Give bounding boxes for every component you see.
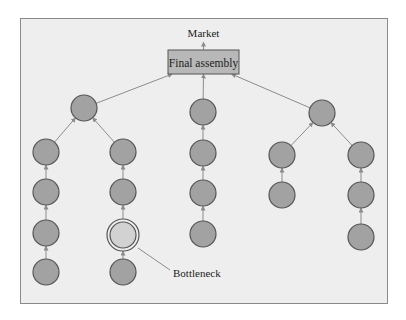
- process-node: [33, 259, 59, 285]
- process-node: [190, 221, 216, 247]
- market-label: Market: [188, 27, 220, 39]
- nodes: [33, 95, 374, 285]
- flow-arrow: [54, 118, 75, 142]
- process-node: [33, 179, 59, 205]
- process-node: [348, 224, 374, 250]
- process-node: [190, 140, 216, 166]
- process-node: [190, 99, 216, 125]
- bottleneck-label: Bottleneck: [173, 267, 221, 279]
- flow-arrow: [291, 122, 313, 145]
- bottleneck-node: [110, 222, 136, 248]
- process-node: [71, 95, 97, 121]
- process-node: [190, 180, 216, 206]
- final-assembly-label: Final assembly: [169, 57, 239, 70]
- process-node: [33, 220, 59, 246]
- process-node: [348, 142, 374, 168]
- supply-chain-tree-diagram: Final assembly Market Bottleneck: [0, 0, 406, 320]
- process-node: [348, 182, 374, 208]
- process-node: [309, 100, 335, 126]
- process-node: [269, 182, 295, 208]
- process-node: [110, 139, 136, 165]
- flow-arrow: [93, 118, 115, 143]
- flow-arrow: [331, 123, 352, 146]
- flow-arrow: [231, 74, 310, 108]
- process-node: [110, 259, 136, 285]
- bottleneck-leader-line: [138, 248, 170, 270]
- process-node: [269, 142, 295, 168]
- process-node: [110, 179, 136, 205]
- process-node: [33, 139, 59, 165]
- flow-arrow: [96, 74, 172, 103]
